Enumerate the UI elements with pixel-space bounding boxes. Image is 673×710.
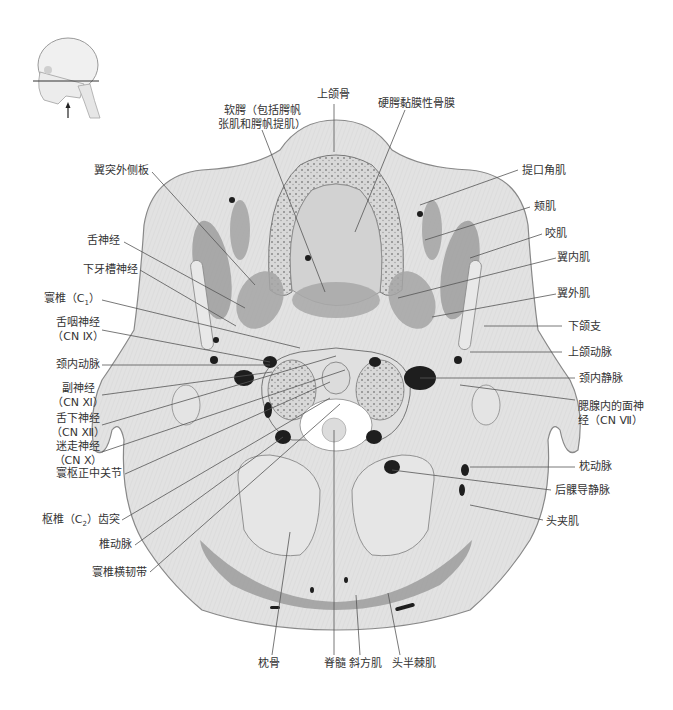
label-facial-nerve-parotid: 腮腺内的面神 经（CN Ⅶ） xyxy=(578,400,644,428)
label-vagus-nerve: 迷走神经 （CN Ⅹ） xyxy=(50,440,106,468)
label-inferior-alveolar-nerve: 下牙槽神经 xyxy=(83,263,138,277)
dens xyxy=(322,362,350,394)
head-profile-inset xyxy=(33,38,100,118)
label-soft-palate: 软腭（包括腭帆 张肌和腭帆提肌） xyxy=(212,104,312,132)
label-glossopharyngeal-nerve: 舌咽神经 （CN Ⅸ） xyxy=(50,316,106,344)
label-lateral-pterygoid-plate: 翼突外侧板 xyxy=(94,164,149,178)
label-median-atlantoaxial-joint: 寰枢正中关节 xyxy=(56,467,122,481)
label-hard-palate-mucoperiosteum: 硬腭黏膜性骨膜 xyxy=(378,97,455,111)
label-splenius-capitis: 头夹肌 xyxy=(546,515,579,529)
posterior-condylar-vein xyxy=(384,460,400,474)
label-vertebral-artery: 椎动脉 xyxy=(99,538,132,552)
internal-jugular-vein-left xyxy=(234,370,254,386)
label-atlas-c1: 寰椎（C1） xyxy=(44,292,100,310)
label-lateral-pterygoid: 翼外肌 xyxy=(557,287,590,301)
label-occipital-bone: 枕骨 xyxy=(258,657,280,671)
label-medial-pterygoid: 翼内肌 xyxy=(557,251,590,265)
anatomy-figure: 软腭（包括腭帆 张肌和腭帆提肌） 上颌骨 硬腭黏膜性骨膜 翼突外侧板 舌神经 下… xyxy=(0,0,673,710)
label-accessory-nerve: 副神经 （CN Ⅺ） xyxy=(50,382,106,410)
label-internal-jugular-vein: 颈内静脉 xyxy=(579,372,623,386)
label-maxillary-artery: 上颌动脉 xyxy=(568,346,612,360)
label-internal-carotid-artery: 颈内动脉 xyxy=(56,358,100,372)
label-occipital-artery: 枕动脉 xyxy=(579,460,612,474)
label-levator-anguli-oris: 提口角肌 xyxy=(522,164,566,178)
label-lingual-nerve: 舌神经 xyxy=(87,234,120,248)
label-posterior-condylar-emissary-vein: 后髁导静脉 xyxy=(555,484,610,498)
label-maxilla: 上颌骨 xyxy=(317,88,350,102)
vertebral-artery-right xyxy=(366,430,382,444)
label-ramus-mandible: 下颌支 xyxy=(568,320,601,334)
view-arrow-icon xyxy=(66,102,71,108)
label-trapezius: 斜方肌 xyxy=(349,657,382,671)
soft-palate-muscles xyxy=(292,282,380,318)
label-transverse-ligament-atlas: 寰椎横韧带 xyxy=(92,566,147,580)
label-hypoglossal-nerve: 舌下神经 （CN Ⅻ） xyxy=(50,412,106,440)
label-spinal-cord: 脊髓 xyxy=(324,657,346,671)
label-dens-c2: 枢椎（C2）齿突 xyxy=(42,513,120,531)
label-buccinator: 颊肌 xyxy=(534,200,556,214)
label-masseter: 咬肌 xyxy=(545,227,567,241)
label-semispinalis-capitis: 头半棘肌 xyxy=(392,657,436,671)
